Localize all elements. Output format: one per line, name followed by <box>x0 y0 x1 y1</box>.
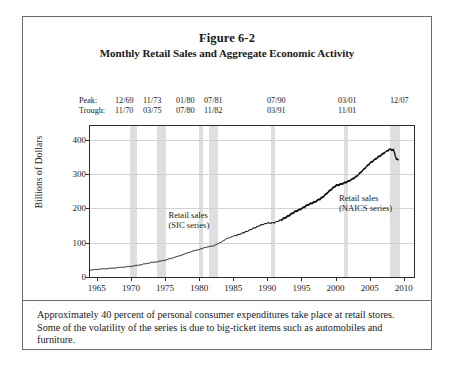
x-tick-mark-1975 <box>165 277 166 281</box>
x-tick-label-1965: 1965 <box>80 283 114 293</box>
x-tick-label-1985: 1985 <box>216 283 250 293</box>
x-tick-label-2005: 2005 <box>353 283 387 293</box>
y-tick-label-400: 400 <box>52 135 86 145</box>
x-tick-label-1975: 1975 <box>148 283 182 293</box>
annotation-line-2: (SIC series) <box>168 220 209 230</box>
annotation-line-1: Retail sales <box>339 193 392 203</box>
figure-caption: Approximately 40 percent of personal con… <box>37 309 419 347</box>
x-tick-mark-1985 <box>233 277 234 281</box>
figure-frame: Figure 6-2 Monthly Retail Sales and Aggr… <box>22 16 432 350</box>
x-tick-label-2000: 2000 <box>319 283 353 293</box>
y-tick-label-0: 0 <box>52 272 86 282</box>
y-tick-mark-0 <box>86 277 90 278</box>
series-annotation-sic: Retail sales(SIC series) <box>168 210 209 230</box>
x-tick-label-1970: 1970 <box>114 283 148 293</box>
x-tick-mark-2010 <box>404 277 405 281</box>
x-tick-label-1990: 1990 <box>250 283 284 293</box>
y-tick-label-200: 200 <box>52 203 86 213</box>
x-tick-label-2010: 2010 <box>387 283 421 293</box>
x-tick-mark-1970 <box>131 277 132 281</box>
series-annotation-naics: Retail sales(NAICS series) <box>339 193 392 213</box>
x-tick-mark-2000 <box>336 277 337 281</box>
series-line-sic <box>90 183 342 270</box>
annotation-line-1: Retail sales <box>168 210 209 220</box>
x-tick-mark-2005 <box>370 277 371 281</box>
y-tick-label-300: 300 <box>52 169 86 179</box>
x-tick-label-1980: 1980 <box>182 283 216 293</box>
x-tick-label-1995: 1995 <box>284 283 318 293</box>
x-tick-mark-1980 <box>199 277 200 281</box>
x-tick-mark-1965 <box>97 277 98 281</box>
plot-region: 0100200300400196519701975198019851990199… <box>89 125 415 278</box>
y-axis-title: Billions of Dollars <box>34 112 44 232</box>
x-tick-mark-1995 <box>301 277 302 281</box>
y-tick-label-100: 100 <box>52 238 86 248</box>
annotation-line-2: (NAICS series) <box>339 203 392 213</box>
caption-divider <box>23 300 431 301</box>
x-tick-mark-1990 <box>267 277 268 281</box>
